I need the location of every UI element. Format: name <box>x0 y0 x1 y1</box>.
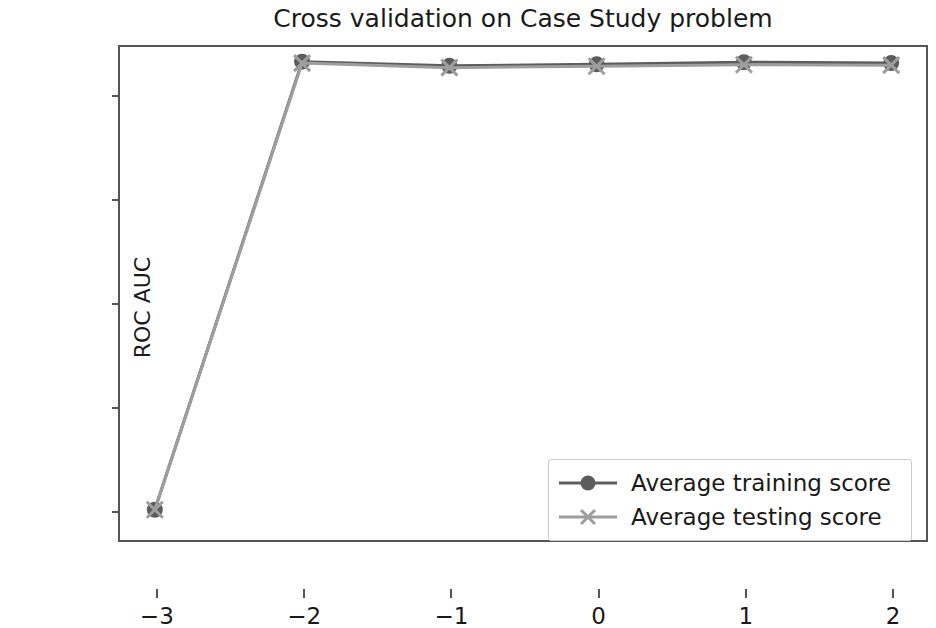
x-tick-mark <box>598 589 600 598</box>
series-line <box>155 62 891 510</box>
series-training <box>147 54 899 518</box>
x-tick-label: −2 <box>264 603 344 628</box>
x-tick-mark <box>745 589 747 598</box>
x-tick-mark <box>892 589 894 598</box>
x-tick-label: −3 <box>117 603 197 628</box>
legend-swatch-circle-icon <box>557 471 619 495</box>
x-tick-mark <box>156 589 158 598</box>
x-tick-label: 2 <box>853 603 933 628</box>
legend-item-testing: Average testing score <box>557 500 901 534</box>
data-point-marker <box>736 54 752 70</box>
x-tick-label: −1 <box>411 603 491 628</box>
legend-item-training: Average training score <box>557 466 901 500</box>
series-line <box>155 63 891 510</box>
series-testing <box>147 55 899 518</box>
legend: Average training score Average testing s… <box>548 459 912 541</box>
legend-label-training: Average training score <box>619 470 891 496</box>
x-tick-mark <box>450 589 452 598</box>
x-tick-label: 0 <box>559 603 639 628</box>
legend-label-testing: Average testing score <box>619 504 882 530</box>
x-tick-mark <box>303 589 305 598</box>
x-tick-label: 1 <box>706 603 786 628</box>
legend-swatch-x-icon <box>557 505 619 529</box>
chart-title: Cross validation on Case Study problem <box>118 2 928 36</box>
